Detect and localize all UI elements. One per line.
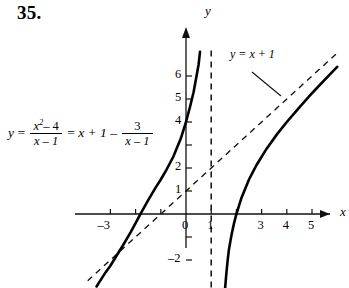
y-axis-arrowhead: [182, 27, 190, 38]
axes-group: [75, 27, 330, 248]
asymptote-leader-line: [252, 72, 281, 96]
y-tick-label: 4: [175, 113, 181, 128]
graph-figure: [0, 0, 349, 288]
y-tick-label: –2: [168, 251, 181, 266]
y-tick-label: 6: [175, 67, 181, 82]
x-tick-label: 4: [283, 218, 289, 233]
curve-left-branch: [97, 52, 200, 287]
y-axis-label: y: [205, 3, 211, 19]
x-tick-label: 1: [207, 218, 213, 233]
x-axis-arrowhead: [320, 210, 330, 218]
y-tick-label: 1: [175, 182, 181, 197]
curves-group: [88, 48, 339, 288]
slant-asymptote-line: [88, 52, 339, 281]
y-tick-label: 5: [175, 90, 181, 105]
x-tick-label: –3: [97, 218, 110, 233]
x-tick-label: 0: [182, 218, 188, 233]
x-tick-label: 5: [308, 218, 314, 233]
x-axis-label: x: [340, 204, 346, 220]
y-tick-label: 2: [175, 159, 181, 174]
x-tick-label: 3: [258, 218, 264, 233]
slant-asymptote-label: y = x + 1: [230, 47, 275, 62]
curve-right-branch: [225, 67, 337, 288]
